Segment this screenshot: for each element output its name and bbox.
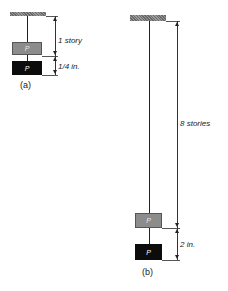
dim-tick xyxy=(42,75,58,76)
dimension-label-upper-a: 1 story xyxy=(58,36,82,45)
dimension-label-lower-a: 1/4 in. xyxy=(58,62,80,71)
arrow-down-icon xyxy=(175,223,179,227)
weight-label: P xyxy=(25,45,30,52)
arrow-down-icon xyxy=(175,255,179,259)
arrow-down-icon xyxy=(53,51,57,55)
ceiling-b xyxy=(130,15,166,21)
weight-label: P xyxy=(25,65,30,72)
dimension-label-lower-b: 2 in. xyxy=(180,240,195,249)
caption-b: (b) xyxy=(142,267,153,277)
arrow-up-icon xyxy=(53,17,57,21)
arrow-down-icon xyxy=(53,70,57,74)
weight-label: P xyxy=(146,249,151,256)
arrow-up-icon xyxy=(53,57,57,61)
weight-top-b: P xyxy=(135,213,162,228)
weight-label: P xyxy=(146,217,151,224)
arrow-up-icon xyxy=(175,229,179,233)
dim-tick xyxy=(162,260,180,261)
dimension-line-a xyxy=(55,16,56,75)
weight-bottom-b: P xyxy=(135,244,162,260)
arrow-up-icon xyxy=(175,22,179,26)
weight-bottom-a: P xyxy=(12,61,42,75)
weight-top-a: P xyxy=(12,42,42,55)
ceiling-a xyxy=(10,12,46,16)
dimension-label-upper-b: 8 stories xyxy=(180,119,210,128)
caption-a: (a) xyxy=(20,80,31,90)
